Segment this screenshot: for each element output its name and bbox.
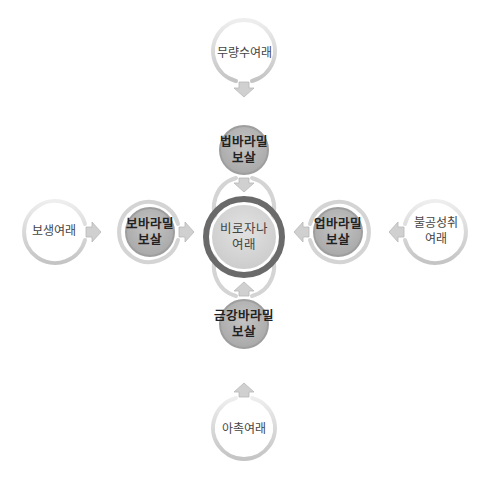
center-node-label-1: 비로자나 [220, 221, 268, 237]
outer-node-bottom: 아촉여래 [204, 410, 284, 450]
center-node-label-2: 여래 [232, 237, 256, 253]
outer-node-left-label: 보생여래 [32, 224, 76, 240]
outer-node-right-label-1: 불공성취 [414, 216, 458, 232]
arrow-up-icon [234, 383, 254, 397]
inner-node-top: 법바라밀 보살 [204, 130, 284, 170]
arrow-down-icon [234, 82, 254, 97]
outer-node-top: 무량수여래 [204, 34, 284, 74]
center-node: 비로자나 여래 [204, 217, 284, 257]
inner-node-left-label-2: 보살 [138, 232, 162, 248]
outer-node-top-label: 무량수여래 [217, 46, 272, 62]
arrow-up-icon [234, 282, 254, 296]
inner-node-left: 보바라밀 보살 [110, 212, 190, 252]
outer-node-left: 보생여래 [14, 212, 94, 252]
inner-node-right: 업바라밀 보살 [298, 212, 378, 252]
outer-node-right-label-2: 여래 [425, 232, 447, 248]
inner-node-top-label-2: 보살 [232, 150, 256, 166]
inner-node-right-label-2: 보살 [326, 232, 350, 248]
inner-node-top-label-1: 법바라밀 [220, 134, 268, 150]
arrow-down-icon [234, 178, 254, 192]
inner-node-left-label-1: 보바라밀 [126, 216, 174, 232]
outer-node-right: 불공성취 여래 [396, 212, 476, 252]
inner-node-bottom: 금강바라밀 보살 [204, 304, 284, 344]
outer-node-bottom-label: 아촉여래 [222, 422, 266, 438]
inner-node-bottom-label-1: 금강바라밀 [214, 308, 274, 324]
inner-node-right-label-1: 업바라밀 [314, 216, 362, 232]
inner-node-bottom-label-2: 보살 [232, 324, 256, 340]
